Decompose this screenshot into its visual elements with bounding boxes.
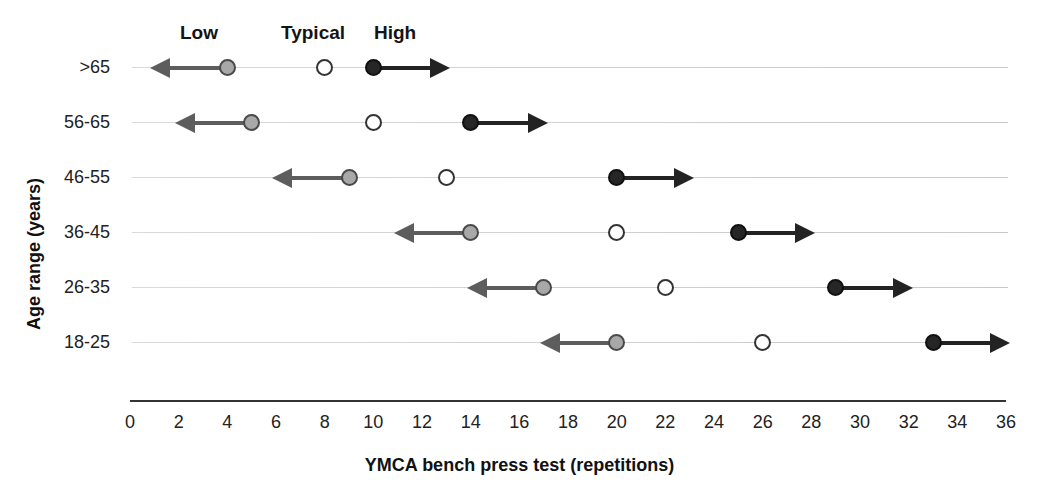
y-tick-label-2: 46-55: [0, 167, 110, 188]
x-tick-label-0: 0: [110, 412, 150, 433]
legend-label-low: Low: [180, 22, 218, 44]
x-tick-label-13: 26: [743, 412, 783, 433]
x-tick-label-4: 8: [305, 412, 345, 433]
y-tick-label-3: 36-45: [0, 222, 110, 243]
x-tick-label-1: 2: [159, 412, 199, 433]
row-baseline: [132, 177, 1008, 178]
low-marker: [608, 334, 625, 351]
typical-marker: [754, 334, 771, 351]
low-marker: [341, 169, 358, 186]
x-axis-title: YMCA bench press test (repetitions): [0, 455, 1039, 476]
x-tick-label-14: 28: [791, 412, 831, 433]
low-arrow-icon: [175, 113, 195, 133]
x-tick-label-12: 24: [694, 412, 734, 433]
high-arrow-icon: [893, 278, 913, 298]
typical-marker: [608, 224, 625, 241]
typical-marker: [365, 114, 382, 131]
high-arrow-icon: [528, 113, 548, 133]
x-tick-label-3: 6: [256, 412, 296, 433]
high-range-segment: [373, 66, 430, 70]
high-marker: [827, 279, 844, 296]
low-marker: [535, 279, 552, 296]
x-tick-label-18: 36: [986, 412, 1026, 433]
x-tick-label-5: 10: [353, 412, 393, 433]
chart-canvas: Low Typical High Age range (years) >65 5…: [0, 0, 1039, 499]
high-range-segment: [471, 121, 528, 125]
high-arrow-icon: [990, 333, 1010, 353]
typical-marker: [438, 169, 455, 186]
x-tick-label-8: 16: [499, 412, 539, 433]
x-tick-label-2: 4: [207, 412, 247, 433]
legend-label-typical: Typical: [281, 22, 345, 44]
y-tick-label-1: 56-65: [0, 112, 110, 133]
x-tick-label-11: 22: [645, 412, 685, 433]
x-tick-label-7: 14: [451, 412, 491, 433]
high-range-segment: [617, 176, 674, 180]
low-marker: [462, 224, 479, 241]
high-range-segment: [836, 286, 893, 290]
y-axis-title: Age range (years): [24, 178, 45, 330]
y-tick-label-4: 26-35: [0, 277, 110, 298]
high-marker: [608, 169, 625, 186]
legend-label-high: High: [374, 22, 416, 44]
low-arrow-icon: [467, 278, 487, 298]
x-tick-label-16: 32: [889, 412, 929, 433]
row-baseline: [132, 122, 1008, 123]
high-range-segment: [933, 341, 990, 345]
x-tick-label-9: 18: [548, 412, 588, 433]
high-marker: [462, 114, 479, 131]
low-marker: [243, 114, 260, 131]
y-tick-label-5: 18-25: [0, 332, 110, 353]
low-arrow-icon: [272, 168, 292, 188]
x-axis-line: [130, 400, 1006, 402]
high-arrow-icon: [795, 223, 815, 243]
low-arrow-icon: [540, 333, 560, 353]
y-tick-label-0: >65: [0, 57, 110, 78]
high-marker: [925, 334, 942, 351]
typical-marker: [657, 279, 674, 296]
low-arrow-icon: [394, 223, 414, 243]
typical-marker: [316, 59, 333, 76]
row-baseline: [132, 67, 1008, 68]
x-tick-label-17: 34: [937, 412, 977, 433]
x-tick-label-15: 30: [840, 412, 880, 433]
low-marker: [219, 59, 236, 76]
high-arrow-icon: [430, 58, 450, 78]
high-marker: [730, 224, 747, 241]
x-tick-label-10: 20: [597, 412, 637, 433]
low-arrow-icon: [150, 58, 170, 78]
row-baseline: [132, 232, 1008, 233]
x-tick-label-6: 12: [402, 412, 442, 433]
high-marker: [365, 59, 382, 76]
high-range-segment: [738, 231, 795, 235]
high-arrow-icon: [674, 168, 694, 188]
